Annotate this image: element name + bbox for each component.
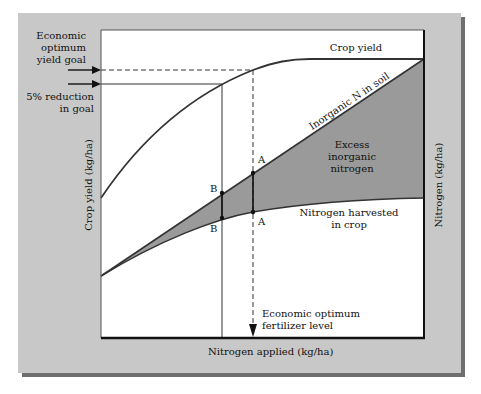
reduction-label-line2: in goal [60, 103, 94, 114]
goal-label-line2: optimum [41, 42, 87, 53]
y-left-axis-label: Crop yield (kg/ha) [83, 139, 94, 231]
point-a-lower [251, 210, 255, 214]
harvested-label-line1: Nitrogen harvested [300, 207, 400, 218]
excess-label-line2: inorganic [328, 151, 376, 162]
crop-yield-label: Crop yield [330, 42, 383, 53]
optimum-fertilizer-label-line1: Economic optimum [262, 308, 360, 319]
x-axis-label: Nitrogen applied (kg/ha) [208, 346, 333, 357]
point-a-upper-label: A [257, 154, 266, 165]
y-right-axis-label: Nitrogen (kg/ha) [433, 143, 444, 228]
optimum-fertilizer-label-line2: fertilizer level [262, 320, 333, 331]
harvested-label-line2: in crop [331, 219, 367, 230]
excess-label-line1: Excess [335, 139, 370, 150]
point-a-lower-label: A [257, 216, 266, 227]
nitrogen-fertilizer-diagram: Economic optimum yield goal 5% reduction… [0, 0, 481, 394]
goal-label-line3: yield goal [36, 54, 86, 65]
point-b-lower [220, 216, 224, 220]
goal-label-line1: Economic [36, 30, 86, 41]
point-b-upper [220, 191, 224, 195]
point-a-upper [251, 171, 255, 175]
excess-label-line3: nitrogen [330, 163, 374, 174]
reduction-label-line1: 5% reduction [26, 91, 94, 102]
point-b-upper-label: B [210, 183, 217, 194]
point-b-lower-label: B [210, 223, 217, 234]
